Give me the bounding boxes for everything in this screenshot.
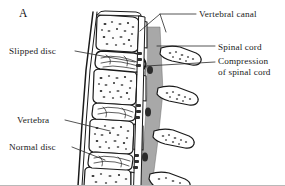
leader-vertebral-canal-fork xyxy=(160,14,166,32)
label-vertebral-canal: Vertebral canal xyxy=(199,9,257,20)
vertebra-body-1 xyxy=(96,15,139,52)
leader-vertebral-canal xyxy=(147,14,196,25)
spinous-process-3 xyxy=(153,129,194,148)
panel-letter: A xyxy=(19,8,28,19)
anatomical-figure-panel-a: A Slipped disc Vertebra Normal disc Vert… xyxy=(0,0,285,186)
label-vertebra: Vertebra xyxy=(17,115,49,126)
label-compression-line-1: Compression xyxy=(218,56,268,66)
spinous-process-2 xyxy=(157,86,198,105)
label-compression-of-spinal-cord: Compression of spinal cord xyxy=(218,56,285,77)
spine-illustration xyxy=(0,0,285,186)
vertebra-body-2 xyxy=(93,69,137,105)
normal-disc xyxy=(88,152,133,170)
intervertebral-disc-0 xyxy=(97,11,141,16)
intervertebral-disc-2 xyxy=(92,103,136,121)
label-normal-disc: Normal disc xyxy=(9,142,56,153)
spinous-process-4 xyxy=(149,172,190,186)
label-compression-line-2: of spinal cord xyxy=(218,67,271,77)
label-spinal-cord: Spinal cord xyxy=(218,42,262,53)
spinous-process-1 xyxy=(160,46,201,65)
vertebra-body-3 xyxy=(89,119,134,154)
label-slipped-disc: Slipped disc xyxy=(9,46,56,57)
